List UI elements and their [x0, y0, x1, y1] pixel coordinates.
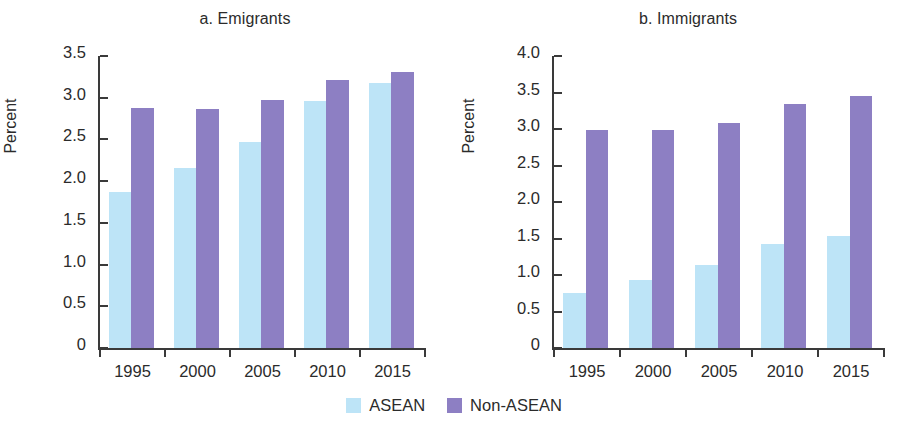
y-tick-mark — [554, 238, 562, 240]
bar-asean-2015 — [827, 236, 850, 348]
bar-asean-2005 — [239, 142, 261, 348]
y-tick-mark — [100, 138, 108, 140]
bar-non-asean-2005 — [718, 123, 741, 348]
y-tick-mark — [554, 92, 562, 94]
x-tick-mark — [817, 348, 819, 357]
x-tick-label: 2000 — [179, 362, 216, 381]
y-tick-label: 3.5 — [517, 80, 540, 99]
y-tick-label: 4.0 — [517, 43, 540, 62]
legend-entry-asean: ASEAN — [346, 396, 425, 415]
chart-panel-emigrants: a. Emigrants Percent 00.51.01.52.02.53.0… — [0, 0, 454, 390]
bar-non-asean-2010 — [326, 80, 348, 348]
y-tick-mark — [100, 222, 108, 224]
x-tick-mark — [751, 348, 753, 357]
x-tick-mark — [359, 348, 361, 357]
bar-non-asean-1995 — [586, 130, 609, 348]
bar-asean-1995 — [563, 293, 586, 348]
y-tick-mark — [100, 55, 108, 57]
y-tick-mark — [554, 165, 562, 167]
y-axis-label-a: Percent — [2, 66, 20, 186]
bar-asean-2015 — [369, 83, 391, 348]
x-tick-mark — [619, 348, 621, 357]
x-tick-label: 1995 — [569, 362, 606, 381]
chart-panel-immigrants: b. Immigrants Percent 00.51.01.52.02.53.… — [454, 0, 908, 390]
y-tick-mark — [100, 305, 108, 307]
x-tick-label: 2000 — [635, 362, 672, 381]
y-tick-mark — [100, 180, 108, 182]
bar-non-asean-2015 — [850, 96, 873, 348]
x-tick-label: 2005 — [244, 362, 281, 381]
y-tick-mark — [554, 311, 562, 313]
y-tick-mark — [100, 97, 108, 99]
legend-label: Non-ASEAN — [470, 396, 562, 415]
bar-asean-2000 — [629, 280, 652, 348]
legend-swatch-icon — [447, 398, 462, 413]
x-tick-mark — [553, 348, 555, 357]
y-tick-label: 2.5 — [63, 126, 86, 145]
bar-asean-2010 — [304, 101, 326, 348]
y-tick-mark — [554, 55, 562, 57]
y-tick-mark — [100, 264, 108, 266]
x-tick-label: 2005 — [701, 362, 738, 381]
panel-title-b: b. Immigrants — [454, 10, 908, 28]
x-tick-label: 2010 — [767, 362, 804, 381]
x-tick-mark — [424, 348, 426, 357]
figure-migration-rates: a. Emigrants Percent 00.51.01.52.02.53.0… — [0, 0, 908, 432]
y-tick-label: 1.0 — [63, 252, 86, 271]
bar-non-asean-2000 — [196, 109, 218, 348]
bar-asean-1995 — [109, 192, 131, 348]
x-tick-mark — [883, 348, 885, 357]
y-tick-label: 1.5 — [63, 210, 86, 229]
y-tick-label: 2.0 — [517, 189, 540, 208]
x-tick-label: 2015 — [833, 362, 870, 381]
y-tick-mark — [554, 201, 562, 203]
x-tick-label: 1995 — [114, 362, 151, 381]
panel-title-a: a. Emigrants — [0, 10, 454, 28]
bar-asean-2010 — [761, 244, 784, 348]
x-tick-mark — [685, 348, 687, 357]
legend-swatch-icon — [346, 398, 361, 413]
bar-non-asean-2000 — [652, 130, 675, 348]
y-tick-mark — [554, 347, 562, 349]
y-tick-label: 0 — [77, 335, 86, 354]
y-tick-label: 0.5 — [517, 299, 540, 318]
y-tick-label: 0 — [531, 335, 540, 354]
y-tick-label: 3.5 — [63, 43, 86, 62]
bar-non-asean-1995 — [131, 108, 153, 348]
y-tick-label: 1.5 — [517, 226, 540, 245]
y-tick-label: 3.0 — [63, 85, 86, 104]
x-tick-label: 2010 — [309, 362, 346, 381]
x-tick-mark — [294, 348, 296, 357]
bar-non-asean-2010 — [784, 104, 807, 348]
chart-legend: ASEANNon-ASEAN — [0, 396, 908, 415]
legend-label: ASEAN — [369, 396, 425, 415]
bar-non-asean-2005 — [261, 100, 283, 348]
y-axis-label-b: Percent — [460, 66, 478, 186]
x-tick-mark — [164, 348, 166, 357]
y-tick-label: 2.0 — [63, 168, 86, 187]
plot-area-emigrants: 00.51.01.52.02.53.03.5199520002005201020… — [98, 56, 425, 350]
y-tick-label: 0.5 — [63, 293, 86, 312]
y-tick-label: 2.5 — [517, 153, 540, 172]
bar-asean-2005 — [695, 265, 718, 348]
y-tick-mark — [554, 128, 562, 130]
bar-non-asean-2015 — [391, 72, 413, 348]
y-tick-mark — [100, 347, 108, 349]
plot-area-immigrants: 00.51.01.52.02.53.03.54.0199520002005201… — [552, 56, 884, 350]
x-tick-label: 2015 — [374, 362, 411, 381]
y-tick-mark — [554, 274, 562, 276]
x-tick-mark — [229, 348, 231, 357]
bar-asean-2000 — [174, 168, 196, 348]
y-tick-label: 3.0 — [517, 116, 540, 135]
legend-entry-non-asean: Non-ASEAN — [447, 396, 562, 415]
y-tick-label: 1.0 — [517, 262, 540, 281]
x-tick-mark — [99, 348, 101, 357]
